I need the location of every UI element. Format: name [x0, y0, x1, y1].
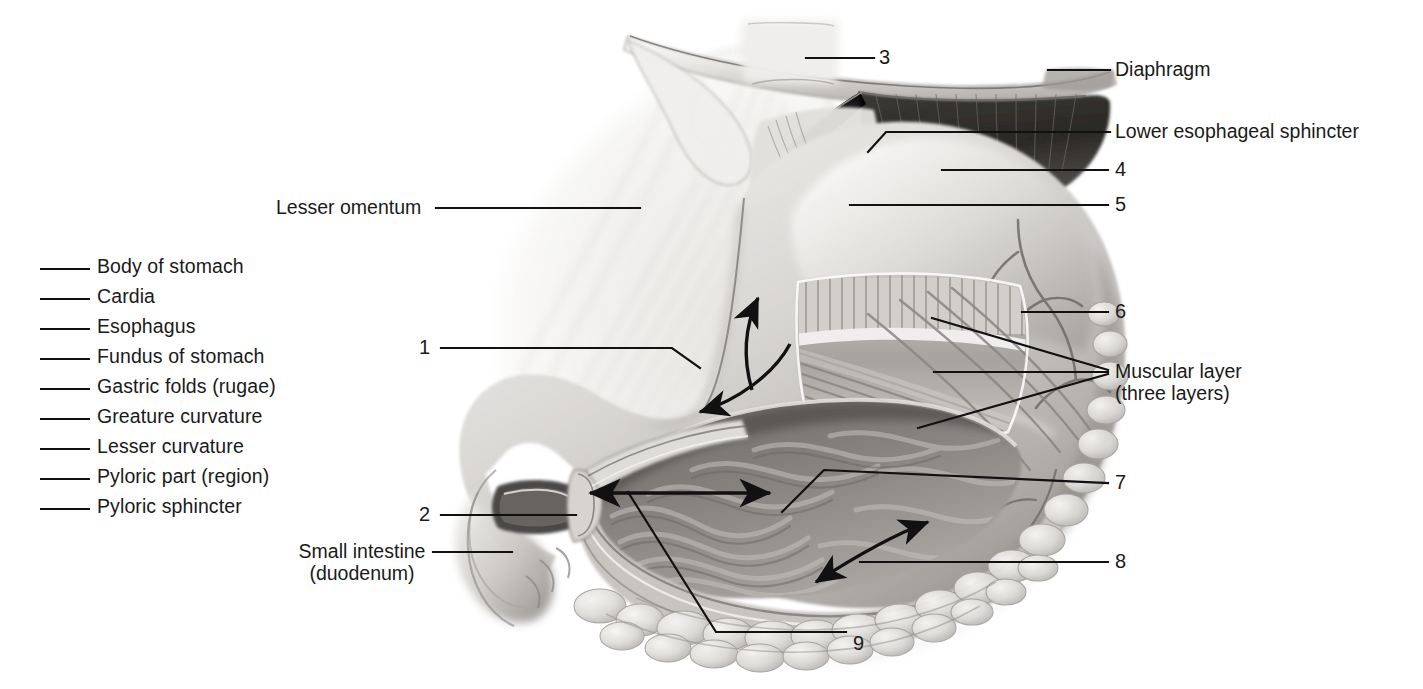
answer-blank[interactable]: [40, 358, 90, 360]
answer-label: Fundus of stomach: [97, 345, 265, 368]
list-item[interactable]: Lesser curvature: [40, 435, 340, 465]
list-item[interactable]: Fundus of stomach: [40, 345, 340, 375]
answer-blank[interactable]: [40, 418, 90, 420]
list-item[interactable]: Cardia: [40, 285, 340, 315]
answer-blank[interactable]: [40, 388, 90, 390]
answer-label: Lesser curvature: [97, 435, 244, 458]
answer-blank[interactable]: [40, 508, 90, 510]
callout-number-4: 4: [1115, 158, 1126, 180]
callout-number-6: 6: [1115, 300, 1126, 322]
answer-label: Gastric folds (rugae): [97, 375, 276, 398]
answer-blank[interactable]: [40, 448, 90, 450]
list-item[interactable]: Pyloric part (region): [40, 465, 340, 495]
callout-number-1: 1: [419, 336, 430, 358]
callout-lesser-omentum: Lesser omentum: [276, 196, 421, 218]
answer-blank[interactable]: [40, 478, 90, 480]
esophagus-art: [741, 20, 840, 84]
anatomy-figure: Body of stomach Cardia Esophagus Fundus …: [0, 0, 1423, 689]
callout-number-7: 7: [1115, 471, 1126, 493]
answer-blank[interactable]: [40, 328, 90, 330]
list-item[interactable]: Gastric folds (rugae): [40, 375, 340, 405]
callout-small-intestine-line2: (duodenum): [291, 562, 433, 584]
callout-diaphragm: Diaphragm: [1115, 58, 1210, 80]
callout-lower-esophageal-sphincter: Lower esophageal sphincter: [1115, 120, 1359, 142]
answer-blank[interactable]: [40, 268, 90, 270]
callout-muscular-layer-line2: (three layers): [1115, 382, 1230, 404]
answer-blank[interactable]: [40, 298, 90, 300]
answer-label: Greature curvature: [97, 405, 262, 428]
list-item[interactable]: Greature curvature: [40, 405, 340, 435]
answer-blank-list: Body of stomach Cardia Esophagus Fundus …: [40, 255, 340, 525]
callout-number-5: 5: [1115, 193, 1126, 215]
list-item[interactable]: Esophagus: [40, 315, 340, 345]
answer-label: Cardia: [97, 285, 155, 308]
callout-small-intestine-line1: Small intestine: [291, 540, 433, 562]
callout-number-3: 3: [879, 46, 890, 68]
callout-number-8: 8: [1115, 550, 1126, 572]
answer-label: Pyloric part (region): [97, 465, 269, 488]
answer-label: Pyloric sphincter: [97, 495, 242, 518]
answer-label: Esophagus: [97, 315, 195, 338]
callout-number-2: 2: [419, 503, 430, 525]
callout-muscular-layer-line1: Muscular layer: [1115, 360, 1242, 382]
list-item[interactable]: Body of stomach: [40, 255, 340, 285]
list-item[interactable]: Pyloric sphincter: [40, 495, 340, 525]
callout-number-9: 9: [853, 632, 864, 654]
answer-label: Body of stomach: [97, 255, 244, 278]
